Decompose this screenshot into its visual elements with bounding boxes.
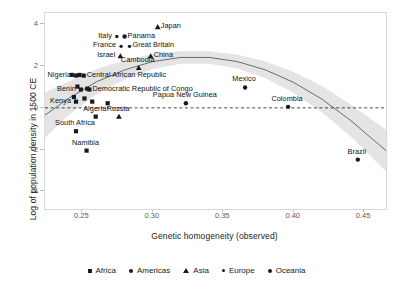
x-tick-label-1: 0.30 (132, 211, 172, 220)
legend-marker-circle-icon (268, 269, 272, 273)
x-tick-label-4: 0.45 (343, 211, 383, 220)
x-tick-label-0: 0.25 (61, 211, 101, 220)
point-label-panama: Panama (128, 32, 155, 39)
point-label-france: France (93, 42, 116, 49)
point-label-south-africa: South Africa (55, 119, 95, 126)
legend-label: Africa (96, 266, 116, 275)
y-tick-label-3: -2 (12, 144, 38, 153)
legend-item-africa[interactable]: Africa (88, 266, 116, 275)
legend-marker-triangle-icon (183, 268, 189, 273)
point-label-algeria: Algeria (83, 104, 106, 111)
legend-item-europe[interactable]: Europe (222, 266, 255, 275)
legend-label: Americas (137, 266, 170, 275)
data-point-south-africa[interactable] (74, 129, 78, 133)
point-label-japan: Japan (161, 22, 181, 29)
legend-label: Asia (193, 266, 209, 275)
data-point-kenya[interactable] (74, 100, 78, 104)
data-point-papua-new-guinea[interactable] (184, 101, 188, 105)
data-point-great-britain[interactable] (128, 45, 131, 48)
legend-item-asia[interactable]: Asia (183, 266, 209, 275)
data-point-nigeria[interactable] (74, 73, 78, 77)
data-point-mexico[interactable] (243, 85, 247, 89)
legend-marker-circle-icon (129, 269, 133, 273)
point-label-colombia: Colombia (271, 95, 302, 102)
legend-label: Oceania (276, 266, 306, 275)
point-label-mexico: Mexico (232, 75, 255, 82)
legend-label: Europe (229, 266, 255, 275)
y-tick-label-1: 2 (12, 61, 38, 70)
y-tick-label-2: 0 (12, 102, 38, 111)
legend-item-americas[interactable]: Americas (129, 266, 170, 275)
data-point-colombia[interactable] (286, 105, 290, 109)
point-label-italy: Italy (98, 32, 112, 39)
legend-marker-square-icon (88, 269, 92, 273)
data-point-panama[interactable] (122, 34, 126, 38)
point-label-great-britain: Great Britain (133, 42, 175, 49)
point-label-israel: Israel (97, 52, 115, 59)
x-axis-title: Genetic homogeneity (observed) (44, 231, 385, 241)
data-point-democratic-republic-of-congo[interactable] (87, 87, 91, 91)
data-point-benin[interactable] (79, 87, 83, 91)
point-label-russia: Russia (107, 104, 130, 111)
x-tick-label-2: 0.35 (202, 211, 242, 220)
y-tick-label-4: -4 (12, 186, 38, 195)
data-point-namibia[interactable] (84, 149, 88, 153)
point-label-papua-new-guinea: Papua New Guinea (153, 91, 217, 98)
x-tick-label-3: 0.40 (273, 211, 313, 220)
legend-marker-dot-icon (222, 269, 225, 272)
legend-item-oceania[interactable]: Oceania (268, 266, 306, 275)
data-point-central-african-republic[interactable] (82, 73, 86, 77)
y-tick-label-0: 4 (12, 19, 38, 28)
data-point-brazil[interactable] (356, 157, 360, 161)
point-label-brazil: Brazil (348, 147, 367, 154)
chart-legend: AfricaAmericasAsiaEuropeOceania (0, 266, 393, 275)
point-label-benin: Benin (57, 85, 76, 92)
point-label-china: China (154, 52, 173, 59)
point-label-nigeria: Nigeria (48, 71, 71, 78)
point-label-namibia: Namibia (72, 138, 99, 145)
data-point-russia[interactable] (116, 114, 122, 119)
data-point[interactable] (82, 96, 86, 100)
point-label-kenya: Kenya (50, 97, 71, 104)
point-label-cambodia: Cambodia (121, 56, 155, 63)
data-point[interactable] (72, 95, 76, 99)
data-point-italy[interactable] (115, 35, 118, 38)
point-label-central-african-republic: Central African Republic (87, 71, 166, 78)
data-point-france[interactable] (119, 45, 122, 48)
